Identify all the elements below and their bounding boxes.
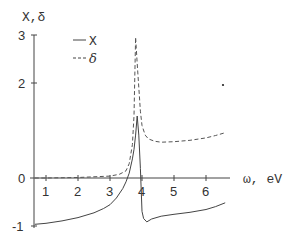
x-tick-label-1: 1 (42, 184, 49, 199)
x-tick-label-3: 3 (106, 184, 113, 199)
y-tick-label-2: 2 (18, 76, 25, 91)
x-axis-title: ω, eV (243, 172, 282, 187)
legend: X δ (73, 34, 97, 66)
stray-dot (222, 84, 224, 86)
y-tick-label-0: 0 (18, 171, 25, 186)
series-x-line (35, 116, 225, 224)
y-tick-label-3: 3 (18, 28, 25, 43)
y-tick-label-neg1: -1 (12, 219, 24, 234)
chart: 3 2 0 -1 1 2 3 4 5 6 X,δ ω, eV X δ (0, 0, 297, 237)
x-tick-label-2: 2 (74, 184, 81, 199)
x-tick-label-6: 6 (202, 184, 209, 199)
series-delta-line (35, 37, 225, 178)
legend-label-x: X (89, 34, 97, 49)
legend-label-delta: δ (89, 51, 97, 66)
y-axis-title: X,δ (22, 10, 46, 25)
x-tick-label-5: 5 (170, 184, 177, 199)
